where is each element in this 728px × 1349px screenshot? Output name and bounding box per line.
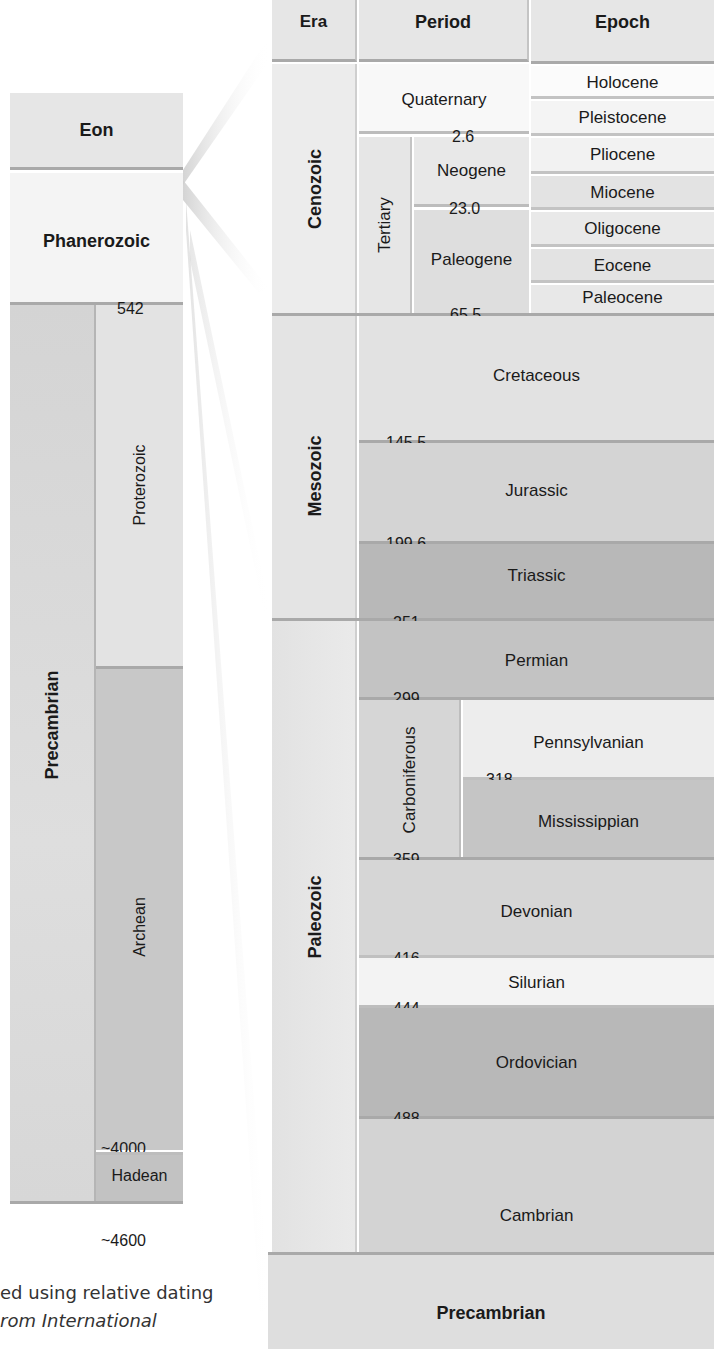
period-paleogene-label: Paleogene (414, 250, 529, 270)
eon-hadean-label: Hadean (96, 1167, 183, 1185)
period-carboniferous-label: Carboniferous (400, 727, 420, 834)
divider (10, 1201, 183, 1204)
epoch-header: Epoch (531, 0, 714, 64)
period-cretaceous: Cretaceous (359, 316, 714, 440)
period-carboniferous: Carboniferous (359, 700, 461, 857)
period-quaternary: Quaternary (359, 64, 529, 134)
period-cambrian-label: Cambrian (359, 1206, 714, 1226)
age-2-6: 2.6 (452, 128, 474, 146)
epoch-pliocene: Pliocene (531, 138, 714, 174)
period-jurassic: Jurassic (359, 443, 714, 541)
epoch-holocene: Holocene (531, 66, 714, 99)
eon-phanerozoic: Phanerozoic (10, 173, 183, 303)
epoch-header-label: Epoch (531, 12, 714, 33)
period-mississippian: Mississippian (463, 780, 714, 857)
period-paleogene: Paleogene (414, 210, 529, 313)
period-ordovician-label: Ordovician (359, 1053, 714, 1073)
period-triassic-label: Triassic (359, 566, 714, 586)
period-ordovician: Ordovician (359, 1008, 714, 1116)
age-23-0: 23.0 (449, 200, 480, 218)
period-header: Period (359, 0, 529, 62)
eon-proterozoic: Proterozoic (96, 305, 183, 668)
period-neogene-label: Neogene (414, 161, 529, 181)
period-header-label: Period (359, 12, 527, 33)
period-silurian: Silurian (359, 958, 714, 1005)
period-tertiary-label: Tertiary (375, 197, 395, 253)
era-cenozoic-label: Cenozoic (305, 149, 326, 229)
epoch-eocene: Eocene (531, 249, 714, 283)
divider (268, 1252, 714, 1255)
epoch-miocene: Miocene (531, 176, 714, 210)
era-header: Era (272, 0, 357, 62)
period-jurassic-label: Jurassic (359, 481, 714, 501)
period-permian-label: Permian (359, 651, 714, 671)
era-cenozoic: Cenozoic (272, 64, 357, 313)
period-pennsylvanian-label: Pennsylvanian (463, 733, 714, 753)
epoch-label: Pleistocene (531, 108, 714, 128)
era-paleozoic: Paleozoic (272, 621, 357, 1313)
epoch-pleistocene: Pleistocene (531, 101, 714, 136)
epoch-label: Oligocene (531, 219, 714, 239)
period-neogene: Neogene (414, 137, 529, 207)
era-precambrian: Precambrian (268, 1254, 714, 1349)
era-paleozoic-label: Paleozoic (305, 875, 326, 958)
eon-header-label: Eon (10, 120, 183, 141)
period-quaternary-label: Quaternary (359, 90, 529, 110)
epoch-label: Miocene (531, 183, 714, 203)
period-mississippian-label: Mississippian (463, 812, 714, 832)
period-cretaceous-label: Cretaceous (359, 366, 714, 386)
eon-hadean: Hadean (96, 1155, 183, 1202)
caption-line-1: ed using relative dating (0, 1282, 214, 1303)
period-devonian-label: Devonian (359, 902, 714, 922)
eon-phanerozoic-label: Phanerozoic (10, 231, 183, 252)
age-542-left: 542 (117, 300, 144, 318)
eon-archean: Archean (96, 669, 183, 1150)
epoch-label: Eocene (531, 256, 714, 276)
era-precambrian-label: Precambrian (268, 1303, 714, 1324)
era-mesozoic-label: Mesozoic (305, 435, 326, 516)
period-permian: Permian (359, 621, 714, 698)
epoch-label: Paleocene (531, 288, 714, 308)
eon-proterozoic-label: Proterozoic (131, 445, 149, 526)
era-header-label: Era (272, 12, 355, 32)
era-mesozoic: Mesozoic (272, 316, 357, 618)
epoch-paleocene: Paleocene (531, 285, 714, 313)
period-tertiary: Tertiary (359, 137, 412, 313)
epoch-label: Pliocene (531, 145, 714, 165)
epoch-label: Holocene (531, 73, 714, 93)
age-4600: ~4600 (101, 1232, 146, 1250)
period-silurian-label: Silurian (359, 973, 714, 993)
period-devonian: Devonian (359, 860, 714, 955)
eon-header: Eon (10, 93, 183, 170)
eon-archean-label: Archean (131, 897, 149, 957)
caption-line-2: rom International (0, 1310, 157, 1331)
period-triassic: Triassic (359, 544, 714, 618)
eon-precambrian-label: Precambrian (42, 670, 63, 779)
epoch-oligocene: Oligocene (531, 212, 714, 247)
eon-precambrian: Precambrian (10, 305, 94, 1202)
period-pennsylvanian: Pennsylvanian (463, 700, 714, 777)
